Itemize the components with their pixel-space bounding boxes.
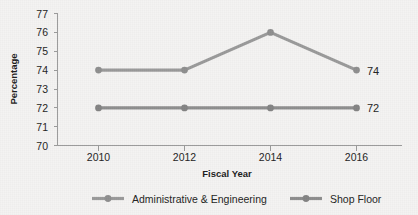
x-tick-label: 2014 [259,151,283,163]
y-tick-label: 72 [36,102,48,114]
y-tick-label: 71 [36,121,48,133]
y-tick-label: 76 [36,26,48,38]
line-chart: 77 76 75 74 73 72 71 70 Percentage 2010 … [0,0,418,215]
y-tick-label: 70 [36,140,48,152]
y-tick-label: 73 [36,83,48,95]
legend-label-administrative-engineering: Administrative & Engineering [132,193,267,205]
legend-label-shop-floor: Shop Floor [330,193,382,205]
y-tick-label: 77 [36,8,48,20]
x-tick-label: 2010 [87,151,111,163]
legend-swatch-marker [105,195,112,202]
y-tick-label: 75 [36,45,48,57]
x-tick-label: 2016 [345,151,369,163]
chart-canvas: 77 76 75 74 73 72 71 70 Percentage 2010 … [0,0,418,215]
data-label-administrative-engineering: 74 [367,65,379,77]
legend-item-administrative-engineering[interactable]: Administrative & Engineering [92,193,267,205]
series-line-administrative-engineering [99,32,357,70]
x-tick-marks [99,146,357,151]
legend-swatch-marker [303,195,310,202]
legend-item-shop-floor[interactable]: Shop Floor [290,193,382,205]
x-axis-title: Fiscal Year [202,168,252,179]
y-tick-marks [54,14,58,146]
chart-legend: Administrative & Engineering Shop Floor [92,193,382,205]
x-tick-label: 2012 [173,151,197,163]
y-tick-label: 74 [36,64,48,76]
y-axis-title: Percentage [8,53,19,104]
data-label-shop-floor: 72 [367,102,379,114]
